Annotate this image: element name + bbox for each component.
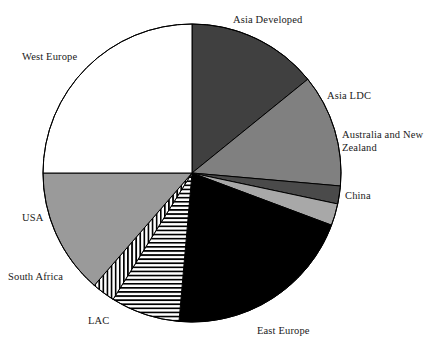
pie-label-lac: LAC	[88, 315, 109, 328]
pie-label-asia-developed: Asia Developed	[233, 14, 302, 27]
pie-chart: Asia DevelopedAsia LDCAustralia and New …	[0, 0, 436, 350]
pie-label-australia-and-new-zealand: Australia and New Zealand	[342, 129, 423, 155]
pie-label-usa: USA	[22, 212, 43, 225]
pie-label-china: China	[345, 190, 371, 203]
pie-slice-west-europe	[43, 24, 192, 173]
pie-label-west-europe: West Europe	[22, 51, 77, 64]
pie-label-south-africa: South Africa	[8, 271, 63, 284]
pie-label-asia-ldc: Asia LDC	[327, 90, 371, 103]
pie-label-east-europe: East Europe	[257, 325, 310, 338]
pie-slices-group	[43, 24, 341, 322]
